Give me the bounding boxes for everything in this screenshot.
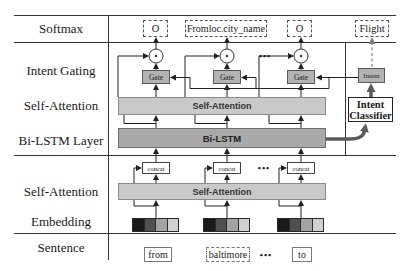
embedding-cell [239,219,250,231]
row-label-bilstm-layer: Bi-LSTM Layer [14,133,108,149]
embedding-cell [204,219,216,231]
model-architecture-diagram: Softmax Intent Gating Self-Attention Bi-… [0,0,413,271]
self-attention-bar-lower: Self-Attention [118,183,326,200]
embedding-cell [278,219,290,231]
row-label-self-attention-upper: Self-Attention [14,98,108,114]
gate-box-1: Gate [142,70,170,84]
bilstm-to-classifier-arrow [326,131,365,139]
embedding-block-3 [277,218,324,232]
concat-box-3: concat [287,162,315,174]
gate-box-3: Gate [287,70,315,84]
row-label-intent-gating: Intent Gating [14,63,108,79]
embedding-cell [313,219,324,231]
self-attention-bar-upper: Self-Attention [118,97,326,115]
elementwise-product-nodes [149,49,308,63]
word-box-1: from [144,247,172,262]
embedding-block-1 [132,218,179,232]
intent-classifier-line1: Intent [357,99,384,110]
embedding-cell [156,219,168,231]
bilstm-bar: Bi-LSTM [118,128,326,148]
ellipsis-concat: ••• [254,162,274,174]
embedding-cell [227,219,239,231]
row-label-softmax: Softmax [14,21,108,37]
ellipsis-sentence: ••• [256,249,276,261]
embedding-cell [216,219,228,231]
concat-box-2: concat [213,162,241,174]
word-box-2: baltimore [206,247,250,262]
intent-gate-bus [175,78,358,89]
intent-classifier-box: Intent Classifier [348,97,393,122]
word-box-3: to [292,247,312,262]
embedding-cell [145,219,157,231]
embedding-cell [301,219,313,231]
gate-box-2: Gate [213,70,241,84]
slot-output-1: O [143,20,168,37]
embedding-cell [133,219,145,231]
concat-box-1: concat [142,162,170,174]
intent-output: Flight [355,20,389,37]
row-label-embedding: Embedding [14,214,108,230]
embedding-cell [168,219,179,231]
row-label-self-attention-lower: Self-Attention [14,184,108,200]
ellipsis-gating: ••• [255,50,275,62]
embedding-block-2 [203,218,250,232]
intent-vector-box: Intent [358,68,385,83]
embedding-cell [290,219,302,231]
row-label-sentence: Sentence [14,240,108,256]
slot-output-3: O [287,20,312,37]
slot-output-2: Fromloc.city_name [185,20,267,37]
intent-classifier-line2: Classifier [349,110,392,121]
